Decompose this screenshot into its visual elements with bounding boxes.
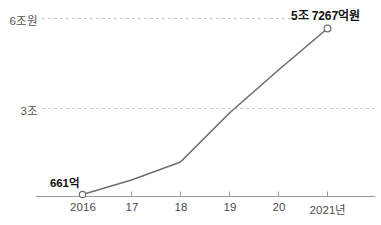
x-axis-ticks — [83, 192, 328, 197]
y-tick-label-3jo: 3조 — [2, 102, 38, 118]
x-tick-label-17: 17 — [112, 201, 152, 213]
x-tick-label-18: 18 — [161, 201, 201, 213]
x-tick-label-2016: 2016 — [58, 201, 108, 213]
y-tick-label-6jo: 6조원 — [2, 12, 38, 28]
data-point-marker-2021 — [324, 25, 331, 32]
x-tick-label-20: 20 — [259, 201, 299, 213]
gridlines — [42, 19, 375, 109]
data-label-last-point: 5조 7267억원 — [291, 6, 360, 23]
chart-canvas — [0, 0, 381, 225]
x-tick-label-19: 19 — [210, 201, 250, 213]
data-point-marker-2016 — [79, 191, 85, 197]
data-label-first-point: 661억 — [50, 174, 80, 190]
line-chart: 6조원 3조 2016 17 18 19 20 2021년 661억 5조 72… — [0, 0, 381, 225]
data-line-series-1 — [83, 29, 328, 195]
x-tick-label-2021: 2021년 — [300, 201, 356, 217]
